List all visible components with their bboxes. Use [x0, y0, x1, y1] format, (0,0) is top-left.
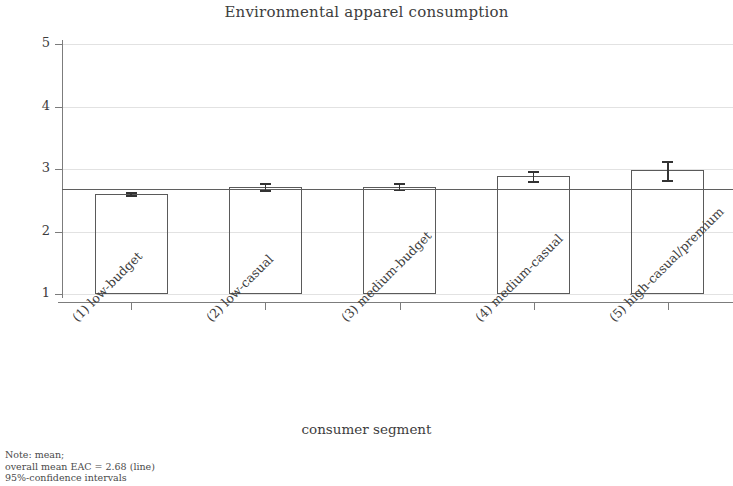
- y-axis-tick-label: 1: [30, 285, 50, 300]
- error-bar-cap-upper: [662, 161, 673, 163]
- footnote-line-3: 95%-confidence intervals: [5, 472, 155, 484]
- x-axis-tick: [400, 303, 401, 310]
- gridline: [62, 107, 733, 108]
- y-axis-line: [62, 40, 63, 298]
- chart-figure: Environmental apparel consumption 12345 …: [0, 0, 733, 486]
- footnote-line-2: overall mean EAC = 2.68 (line): [5, 461, 155, 473]
- x-axis-tick: [668, 303, 669, 310]
- error-bar-cap-upper: [394, 183, 405, 185]
- x-axis-tick: [534, 303, 535, 310]
- y-axis-tick: [55, 107, 62, 108]
- y-axis-tick: [55, 169, 62, 170]
- y-axis-tick: [55, 232, 62, 233]
- y-axis-tick-label: 2: [30, 223, 50, 238]
- y-axis-tick: [55, 294, 62, 295]
- error-bar-cap-lower: [528, 181, 539, 183]
- gridline: [62, 44, 733, 45]
- error-bar-cap-lower: [260, 190, 271, 192]
- error-bar-cap-upper: [126, 192, 137, 194]
- x-axis-title: consumer segment: [0, 421, 733, 437]
- error-bar-cap-lower: [126, 195, 137, 197]
- error-bar-cap-upper: [528, 171, 539, 173]
- x-axis-tick: [131, 303, 132, 310]
- x-axis-tick: [265, 303, 266, 310]
- y-axis-tick-label: 4: [30, 98, 50, 113]
- y-axis-tick: [55, 44, 62, 45]
- error-bar-stem: [667, 161, 669, 180]
- error-bar-cap-lower: [662, 180, 673, 182]
- y-axis-tick-label: 5: [30, 35, 50, 50]
- error-bar-cap-upper: [260, 183, 271, 185]
- chart-footnote: Note: mean; overall mean EAC = 2.68 (lin…: [5, 449, 155, 484]
- y-axis-tick-label: 3: [30, 160, 50, 175]
- footnote-line-1: Note: mean;: [5, 449, 155, 461]
- chart-title: Environmental apparel consumption: [0, 3, 733, 21]
- error-bar-cap-lower: [394, 190, 405, 192]
